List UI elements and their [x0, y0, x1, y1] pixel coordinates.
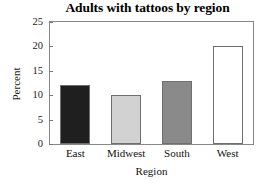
x-axis-tick-label: East	[50, 147, 101, 160]
x-axis-tick-label: West	[202, 147, 253, 160]
bar-slot	[202, 22, 253, 144]
bar	[213, 46, 243, 144]
chart-title: Adults with tattoos by region	[40, 0, 255, 16]
bar	[60, 85, 90, 144]
bar-slot	[50, 22, 101, 144]
y-axis-tick	[49, 120, 53, 121]
y-axis-tick-label: 10	[0, 90, 43, 100]
x-axis-tick-labels: EastMidwestSouthWest	[50, 147, 253, 160]
y-axis-tick-label: 15	[0, 66, 43, 76]
y-axis-tick	[49, 22, 53, 23]
y-axis-tick	[49, 144, 53, 145]
y-axis-tick-label: 5	[0, 115, 43, 125]
bar-slot	[152, 22, 203, 144]
y-axis-tick	[49, 46, 53, 47]
y-axis-tick-label: 25	[0, 17, 43, 27]
bar	[111, 95, 141, 144]
y-axis-tick-label: 20	[0, 41, 43, 51]
y-axis-tick	[49, 95, 53, 96]
y-axis-tick	[49, 71, 53, 72]
y-axis-label: Percent	[10, 44, 22, 124]
x-axis-tick-label: Midwest	[101, 147, 152, 160]
bar-series	[50, 22, 253, 144]
bar	[162, 81, 192, 144]
x-axis-tick-label: South	[152, 147, 203, 160]
x-axis-label: Region	[49, 165, 254, 178]
bar-chart: Adults with tattoos by region Percent Ea…	[0, 0, 263, 190]
y-axis-tick-label: 0	[0, 139, 43, 149]
bar-slot	[101, 22, 152, 144]
